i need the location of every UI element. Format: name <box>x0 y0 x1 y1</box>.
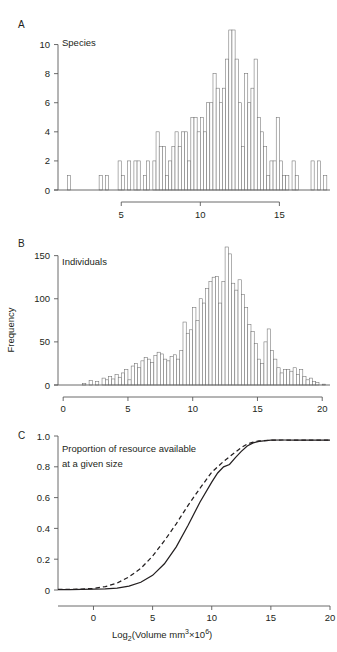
histogram-bar <box>121 373 124 385</box>
x-tick-label: 5 <box>125 403 130 414</box>
histogram-bar <box>222 282 225 386</box>
histogram-bar <box>186 333 189 385</box>
histogram-bar <box>222 88 225 190</box>
histogram-bar <box>273 161 276 190</box>
y-tick-label: 0 <box>45 185 50 196</box>
axis-title-log: Log <box>112 629 128 640</box>
x-tick-label: 10 <box>195 209 206 220</box>
panel-a-bars <box>67 30 326 190</box>
x-tick-label: 10 <box>187 403 198 414</box>
histogram-bar <box>141 361 144 385</box>
histogram-bar <box>118 377 121 385</box>
histogram-bar <box>232 30 235 190</box>
histogram-bar <box>156 132 159 190</box>
histogram-bar <box>181 132 184 190</box>
histogram-bar <box>203 132 206 190</box>
histogram-bar <box>191 117 194 190</box>
histogram-bar <box>194 117 197 190</box>
histogram-bar <box>177 359 180 385</box>
panel-b-bars <box>83 247 326 385</box>
histogram-bar <box>306 380 309 385</box>
histogram-bar <box>125 369 128 385</box>
histogram-bar <box>105 175 108 190</box>
histogram-bar <box>276 117 279 190</box>
x-tick-label: 5 <box>150 612 155 623</box>
histogram-bar <box>102 378 105 385</box>
panel-b-plot: B Individuals Frequency 050100150 051015… <box>0 225 337 420</box>
histogram-bar <box>283 175 286 190</box>
histogram-bar <box>144 357 147 385</box>
histogram-bar <box>153 161 156 190</box>
x-tick-label: 20 <box>317 403 328 414</box>
histogram-bar <box>219 103 222 190</box>
panel-a-inner-label: Species <box>62 37 96 48</box>
histogram-bar <box>172 146 175 190</box>
histogram-bar <box>245 74 248 190</box>
histogram-bar <box>235 59 238 190</box>
histogram-bar <box>167 361 170 385</box>
histogram-bar <box>212 277 215 385</box>
x-tick-label: 15 <box>274 209 285 220</box>
panel-c-y-axis: 00.20.40.60.81.0 <box>37 431 58 596</box>
axis-title-mid: (Volume mm <box>132 629 185 640</box>
histogram-bar <box>197 132 200 190</box>
histogram-bar <box>286 175 289 190</box>
histogram-bar <box>160 354 163 385</box>
histogram-bar <box>137 161 140 190</box>
histogram-bar <box>178 146 181 190</box>
x-tick-label: 20 <box>325 612 336 623</box>
histogram-bar <box>254 59 257 190</box>
histogram-bar <box>267 329 270 385</box>
panel-b-inner-label: Individuals <box>62 256 107 267</box>
histogram-bar <box>280 373 283 385</box>
histogram-bar <box>112 379 115 385</box>
histogram-bar <box>206 288 209 385</box>
histogram-bar <box>202 303 205 385</box>
histogram-bar <box>213 74 216 190</box>
histogram-bar <box>151 363 154 385</box>
histogram-bar <box>183 322 186 385</box>
histogram-bar <box>67 175 70 190</box>
figure-container: A Species 0246810 51015 B Individuals Fr… <box>0 0 337 652</box>
histogram-bar <box>270 351 273 386</box>
histogram-bar <box>225 247 228 385</box>
histogram-bar <box>115 375 118 385</box>
histogram-bar <box>283 369 286 385</box>
histogram-bar <box>164 359 167 385</box>
histogram-bar <box>196 320 199 385</box>
histogram-bar <box>292 161 295 190</box>
x-tick-label: 15 <box>252 403 263 414</box>
histogram-bar <box>257 359 260 385</box>
histogram-bar <box>134 363 137 385</box>
histogram-bar <box>170 357 173 385</box>
histogram-bar <box>238 103 241 190</box>
histogram-bar <box>134 161 137 190</box>
histogram-bar <box>295 175 298 190</box>
panel-c-letter: C <box>18 430 25 441</box>
y-tick-label: 10 <box>39 39 50 50</box>
histogram-bar <box>241 146 244 190</box>
histogram-bar <box>157 352 160 385</box>
panel-c-inner-label-line1: Proportion of resource available <box>62 443 196 454</box>
histogram-bar <box>293 368 296 385</box>
panel-c-inner-label-line2: at a given size <box>62 458 123 469</box>
histogram-bar <box>189 330 192 385</box>
histogram-bar <box>131 366 134 385</box>
x-tick-label: 0 <box>91 612 96 623</box>
axis-title-base10: 10 <box>195 629 206 640</box>
histogram-bar <box>251 332 254 385</box>
histogram-bar <box>199 299 202 385</box>
histogram-bar <box>147 161 150 190</box>
histogram-bar <box>162 146 165 190</box>
y-tick-label: 2 <box>45 155 50 166</box>
panel-c: C Proportion of resource available at a … <box>0 420 337 652</box>
x-tick-label: 10 <box>206 612 217 623</box>
histogram-bar <box>248 103 251 190</box>
y-tick-label: 0 <box>45 585 50 596</box>
histogram-bar <box>245 307 248 385</box>
panel-c-plot: C Proportion of resource available at a … <box>0 420 337 652</box>
histogram-bar <box>180 351 183 386</box>
panel-a-x-axis: 51015 <box>54 190 330 220</box>
histogram-bar <box>138 368 141 385</box>
histogram-bar <box>216 88 219 190</box>
